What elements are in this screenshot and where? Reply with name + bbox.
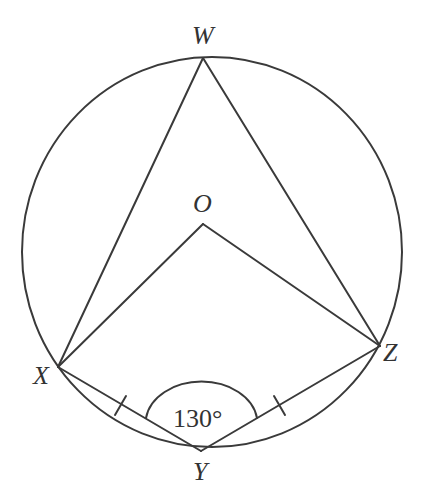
tick-mark-yz <box>274 396 285 415</box>
point-label-w: W <box>192 21 216 50</box>
segment-wz <box>203 58 380 346</box>
circle-geometry-diagram: W O X Z Y 130° <box>0 0 435 494</box>
point-label-z: Z <box>383 338 398 367</box>
point-label-o: O <box>193 189 212 218</box>
angle-label-130: 130° <box>173 404 222 433</box>
circle <box>22 57 402 447</box>
point-label-x: X <box>32 361 50 390</box>
point-label-y: Y <box>193 457 210 486</box>
segment-yz <box>201 346 380 451</box>
segment-oz <box>203 224 380 346</box>
segment-wx <box>58 58 203 367</box>
segment-ox <box>58 224 203 367</box>
